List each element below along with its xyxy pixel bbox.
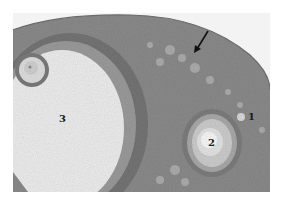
micrograph-image bbox=[13, 13, 270, 192]
label-2: 2 bbox=[208, 138, 215, 148]
label-1: 1 bbox=[248, 112, 255, 122]
label-3: 3 bbox=[59, 114, 66, 124]
micrograph-frame bbox=[13, 13, 270, 192]
